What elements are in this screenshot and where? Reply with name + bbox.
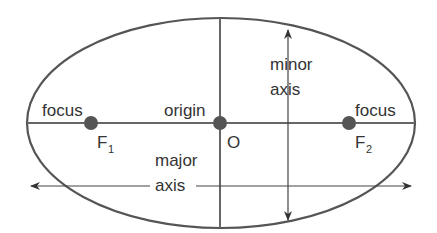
focus-point-f1 [84, 116, 98, 130]
origin-point [213, 116, 227, 130]
focus-left-label: focus [42, 101, 83, 120]
minor-axis-label-1: minor [270, 55, 313, 74]
f1-subscript: 1 [108, 143, 114, 155]
minor-axis-label-2: axis [270, 80, 300, 99]
origin-point-label: O [227, 133, 240, 152]
focus-right-label: focus [355, 101, 396, 120]
f2-label: F [355, 133, 365, 152]
major-axis-label-2: axis [155, 176, 185, 195]
focus-point-f2 [342, 116, 356, 130]
f1-label: F [97, 133, 107, 152]
ellipse-diagram: focus origin focus minor axis F 1 O F 2 … [0, 0, 437, 233]
major-axis-label-1: major [155, 151, 198, 170]
origin-label: origin [164, 101, 206, 120]
f2-subscript: 2 [366, 143, 372, 155]
